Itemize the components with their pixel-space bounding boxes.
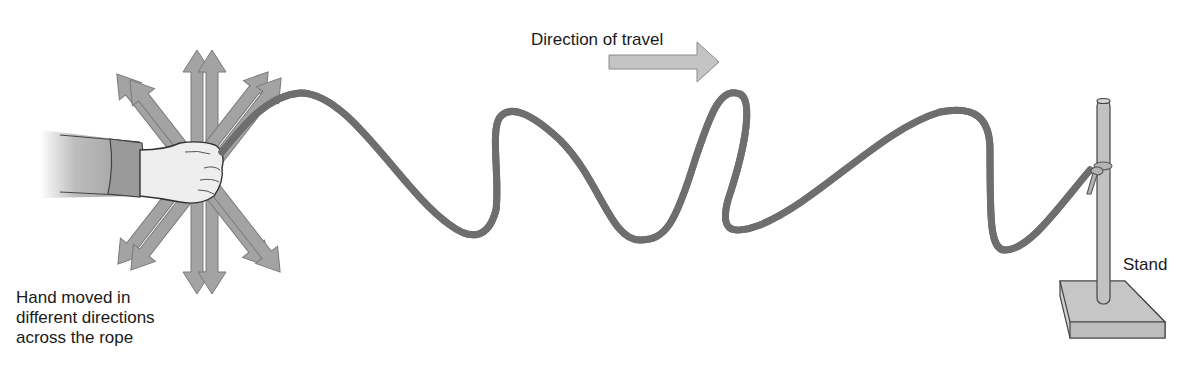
arm-icon [40,130,144,198]
hand-caption-line-3: across the rope [16,328,216,348]
hand-icon [140,142,223,203]
stand-label: Stand [1123,255,1167,275]
direction-of-travel-label: Direction of travel [531,30,663,50]
rope-wave [222,93,1090,250]
stand-icon [1060,99,1165,339]
hand-caption-line-2: different directions [16,308,216,328]
hand-caption-line-1: Hand moved in [16,288,216,308]
hand-caption: Hand moved in different directions acros… [16,288,216,348]
